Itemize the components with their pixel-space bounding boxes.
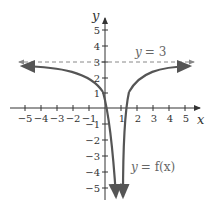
asymptote-label: y= 3	[134, 45, 166, 59]
y-tick-label: 3	[94, 57, 100, 68]
x-tick-label: 4	[167, 113, 173, 124]
x-tick-label: 5	[183, 113, 189, 124]
function-label: y= f(x)	[130, 160, 175, 174]
x-tick-label: 3	[151, 113, 157, 124]
y-tick-label: −4	[85, 167, 100, 178]
y-tick-label: 4	[94, 41, 100, 52]
x-axis-label: x	[197, 112, 205, 127]
y-tick-label: −5	[85, 183, 100, 194]
x-tick-label: −2	[66, 113, 81, 124]
y-axis-label: y	[91, 8, 100, 23]
y-tick-label: 1	[94, 88, 100, 99]
x-tick-label: −3	[50, 113, 65, 124]
y-tick-label: −2	[85, 135, 100, 146]
y-tick-label: −1	[85, 119, 100, 130]
x-tick-label: 2	[135, 113, 141, 124]
curve-left-branch	[22, 66, 103, 92]
curve-right-branch	[129, 66, 190, 92]
y-tick-label: 5	[94, 25, 100, 36]
x-tick-label: −5	[18, 113, 33, 124]
x-tick-label: −4	[34, 113, 49, 124]
graph: −5 −4 −3 −2 −1 1 2 3 4 5 5 4 3 2 1 −1 −2…	[0, 0, 211, 208]
y-tick-label: −3	[85, 151, 100, 162]
